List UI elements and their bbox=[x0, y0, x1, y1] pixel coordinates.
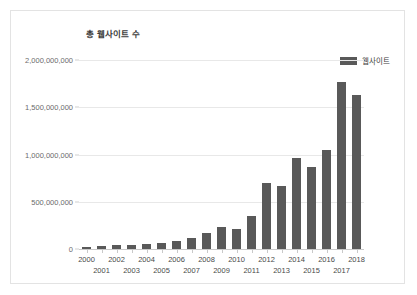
x-axis-tick-label: 2012 bbox=[258, 255, 275, 264]
x-axis-tick-label: 2013 bbox=[273, 266, 290, 275]
chart-title: 총 웹사이트 수 bbox=[86, 27, 140, 39]
x-axis-tick-label: 2007 bbox=[183, 266, 200, 275]
y-axis-tick-label: 1,500,000,000 bbox=[25, 103, 73, 112]
x-axis-tick-label: 2009 bbox=[213, 266, 230, 275]
x-axis-tick-label: 2015 bbox=[303, 266, 320, 275]
bar[interactable] bbox=[232, 229, 240, 249]
bar[interactable] bbox=[322, 150, 330, 249]
x-axis-tick-mark bbox=[327, 249, 328, 253]
y-axis-tick-label: 500,000,000 bbox=[31, 197, 73, 206]
x-axis-tick-label: 2006 bbox=[168, 255, 185, 264]
x-axis-tick-label: 2014 bbox=[288, 255, 305, 264]
x-axis-tick-mark bbox=[162, 249, 163, 253]
x-axis-tick-label: 2010 bbox=[228, 255, 245, 264]
bar[interactable] bbox=[352, 95, 360, 249]
legend-label: 웹사이트 bbox=[362, 55, 390, 66]
x-axis-tick-label: 2001 bbox=[93, 266, 110, 275]
x-axis-tick-mark bbox=[282, 249, 283, 253]
y-axis-tick-label: 1,000,000,000 bbox=[25, 150, 73, 159]
x-axis-tick-label: 2011 bbox=[243, 266, 259, 275]
plot-area: 0500,000,0001,000,000,0001,500,000,0002,… bbox=[79, 60, 364, 249]
bar[interactable] bbox=[292, 158, 300, 249]
x-axis-tick-label: 2002 bbox=[108, 255, 125, 264]
x-axis-tick-label: 2016 bbox=[318, 255, 335, 264]
chart-card: 총 웹사이트 수 웹사이트 0500,000,0001,000,000,0001… bbox=[10, 10, 405, 284]
x-axis-tick-label: 2008 bbox=[198, 255, 215, 264]
x-axis-tick-mark bbox=[312, 249, 313, 253]
bar[interactable] bbox=[217, 227, 225, 249]
x-axis-tick-mark bbox=[192, 249, 193, 253]
x-axis-tick-mark bbox=[132, 249, 133, 253]
x-axis-tick-mark bbox=[357, 249, 358, 253]
x-axis-tick-mark bbox=[102, 249, 103, 253]
x-axis-tick-mark bbox=[237, 249, 238, 253]
bar[interactable] bbox=[277, 186, 285, 250]
x-axis-tick-mark bbox=[297, 249, 298, 253]
bar[interactable] bbox=[202, 233, 210, 249]
bar[interactable] bbox=[262, 183, 270, 249]
x-axis-tick-mark bbox=[342, 249, 343, 253]
y-axis-tick-label: 2,000,000,000 bbox=[25, 56, 73, 65]
bar[interactable] bbox=[172, 241, 180, 249]
bar[interactable] bbox=[187, 238, 195, 249]
x-axis-tick-label: 2003 bbox=[123, 266, 140, 275]
x-axis-tick-label: 2017 bbox=[333, 266, 350, 275]
x-axis-tick-mark bbox=[147, 249, 148, 253]
x-axis-tick-mark bbox=[267, 249, 268, 253]
x-axis-tick-label: 2004 bbox=[138, 255, 155, 264]
x-axis-tick-label: 2018 bbox=[348, 255, 365, 264]
bar[interactable] bbox=[307, 167, 315, 249]
x-axis-tick-mark bbox=[87, 249, 88, 253]
x-axis-tick-mark bbox=[177, 249, 178, 253]
x-axis-tick-mark bbox=[117, 249, 118, 253]
bars-group bbox=[79, 60, 364, 249]
x-axis-tick-mark bbox=[222, 249, 223, 253]
x-axis-tick-label: 2000 bbox=[78, 255, 95, 264]
x-axis-tick-label: 2005 bbox=[153, 266, 170, 275]
x-axis-tick-mark bbox=[207, 249, 208, 253]
y-axis-tick-label: 0 bbox=[69, 245, 73, 254]
x-axis-tick-mark bbox=[252, 249, 253, 253]
bar[interactable] bbox=[247, 216, 255, 249]
bar[interactable] bbox=[337, 82, 345, 249]
